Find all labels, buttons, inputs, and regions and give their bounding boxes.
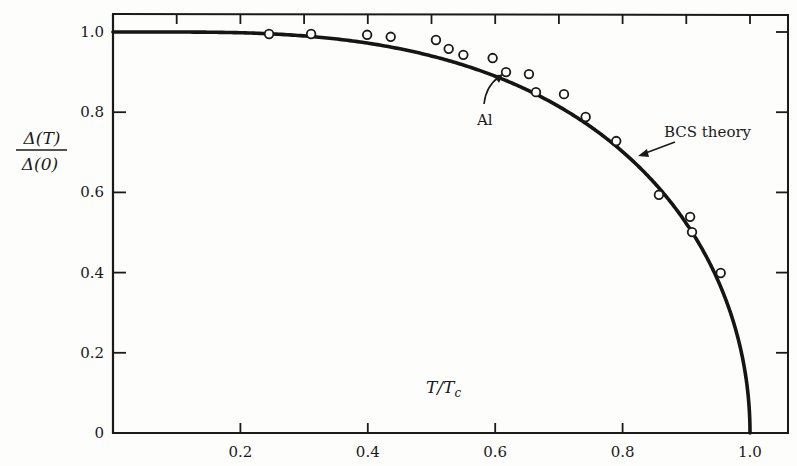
y-tick-label: 0 [94,424,104,442]
al-data-point [363,31,372,40]
al-data-point [488,54,497,63]
al-data-point [532,88,541,97]
annotation-al-label: Al [476,111,493,129]
annotation-bcs-label: BCS theory [664,123,752,141]
al-data-point [459,51,468,60]
x-axis-title: T/Tc [426,377,461,400]
bcs-theory-curve [113,32,750,433]
annotation-bcs-theory: BCS theory [638,123,752,157]
y-axis-title: Δ(T) Δ(0) [16,128,67,174]
x-tick-label: 0.4 [356,443,380,461]
al-data-point [386,33,395,42]
al-data-point [432,36,441,45]
x-tick-label: 0.2 [228,443,252,461]
x-tick-label: 0.6 [483,443,507,461]
tick-labels: 0.20.40.60.81.000.20.40.60.81.0 [80,23,762,461]
al-data-point [581,113,590,122]
x-axis-title-subscript: c [454,386,461,400]
y-tick-label: 0.6 [80,183,104,201]
annotation-al: Al [476,74,503,129]
al-data-point [265,30,274,39]
y-tick-label: 0.2 [80,344,104,362]
y-tick-label: 0.4 [80,264,104,282]
al-data-point [502,68,511,77]
al-data-points [265,30,725,278]
al-data-point [716,269,725,278]
y-tick-label: 0.8 [80,103,104,121]
y-tick-label: 1.0 [80,23,104,41]
al-data-point [525,70,534,79]
al-data-point [444,45,453,54]
al-data-point [655,191,664,200]
al-data-point [612,137,621,146]
al-data-point [688,228,697,237]
al-data-point [307,30,316,39]
bcs-gap-chart: 0.20.40.60.81.000.20.40.60.81.0 Δ(T) Δ(0… [0,0,797,466]
x-axis-title-main: T/T [426,377,456,397]
x-tick-label: 0.8 [611,443,635,461]
al-arrow-line [484,77,499,104]
top-border [112,14,789,15]
y-axis-title-denominator: Δ(0) [21,154,58,174]
x-axis-title-text: T/Tc [426,377,461,400]
y-axis-title-numerator: Δ(T) [23,128,61,148]
al-data-point [686,213,695,222]
x-tick-label: 1.0 [738,443,762,461]
bcs-arrow-head-icon [638,149,649,157]
al-data-point [560,90,569,99]
